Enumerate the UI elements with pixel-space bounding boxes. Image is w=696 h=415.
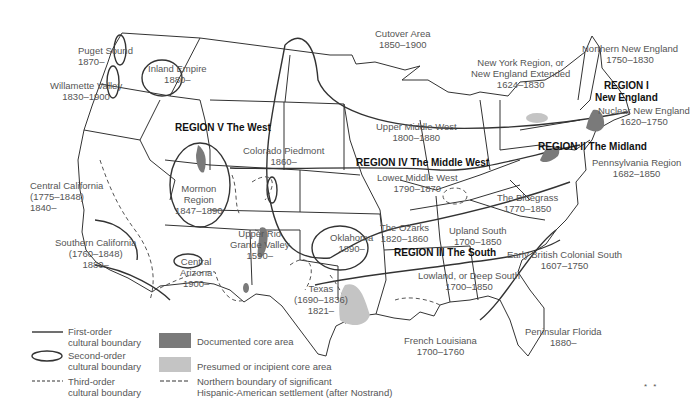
label-pennsylvania-region: Pennsylvania Region1682–1850 <box>592 157 681 179</box>
legend-documented-core: Documented core area <box>197 336 294 347</box>
label-new-york-region: New York Region, orNew England Extended1… <box>471 57 570 90</box>
label-central-arizona: CentralArizona1900– <box>180 256 212 289</box>
label-french-louisiana: French Louisiana1700–1760 <box>404 335 477 357</box>
legend-third-order: Third-ordercultural boundary <box>68 376 141 398</box>
label-upland-south: Upland South1700–1850 <box>449 225 507 247</box>
label-inland-empire: Inland Empire1880– <box>148 63 207 85</box>
new-york-core <box>526 113 548 123</box>
label-central-california: Central California(1775–1848)1840– <box>30 180 103 213</box>
legend-first-order: First-ordercultural boundary <box>68 326 141 348</box>
first-order-boundary-west-mw <box>285 38 628 128</box>
label-upper-middle-west: Upper Middle West1800–1880 <box>376 121 457 143</box>
label-upper-rio-grande: Upper RioGrande Valley1590– <box>230 228 290 261</box>
label-northern-new-england: Northern New England1750–1830 <box>582 43 678 65</box>
label-lowland-deep-south: Lowland, or Deep South1700–1850 <box>418 270 520 292</box>
label-willamette-valley: Willamette Valley1830–1900 <box>50 80 122 102</box>
label-southern-california: Southern California(1760–1848)1880– <box>55 237 136 270</box>
legend-second-order: Second-ordercultural boundary <box>68 350 141 372</box>
label-peninsular-florida: Peninsular Florida1880– <box>525 326 602 348</box>
label-cutover-area: Cutover Area1850–1900 <box>375 28 430 50</box>
label-mormon-region: MormonRegion1847–1890 <box>175 183 223 216</box>
legend-hispanic-boundary: Northern boundary of significantHispanic… <box>197 376 392 398</box>
label-colorado-piedmont: Colorado Piedmont1860– <box>243 145 324 167</box>
label-texas: Texas(1690–1836)1821– <box>294 283 348 316</box>
legend-presumed-core-swatch <box>159 357 191 372</box>
legend-second-order-oval <box>32 351 62 361</box>
legend-presumed-core: Presumed or incipient core area <box>197 361 332 372</box>
label-nuclear-new-england: Nuclear New England1620–1750 <box>598 105 690 127</box>
region-ii-label: REGION II The Midland <box>538 141 647 153</box>
region-iii-label: REGION III The South <box>394 247 496 259</box>
label-puget-sound: Puget Sound1870– <box>78 45 133 67</box>
mormon-core <box>196 145 206 173</box>
footer-mark: * * <box>644 382 658 391</box>
label-the-bluegrass: The Bluegrass1770–1850 <box>497 192 558 214</box>
label-the-ozarks: The Ozarks1820–1860 <box>380 222 429 244</box>
region-iv-label: REGION IV The Middle West <box>356 157 489 169</box>
label-oklahoma: Oklahoma1890– <box>330 232 373 254</box>
region-v-label: REGION V The West <box>175 122 271 134</box>
region-i-number: REGION I <box>595 80 658 92</box>
region-i-name: New England <box>595 92 658 104</box>
legend-documented-core-swatch <box>159 333 191 348</box>
region-i-label: REGION I New England <box>595 80 658 104</box>
label-lower-middle-west: Lower Middle West1790–1870 <box>377 172 458 194</box>
label-early-british-colonial-south: Early British Colonial South1607–1750 <box>507 249 622 271</box>
